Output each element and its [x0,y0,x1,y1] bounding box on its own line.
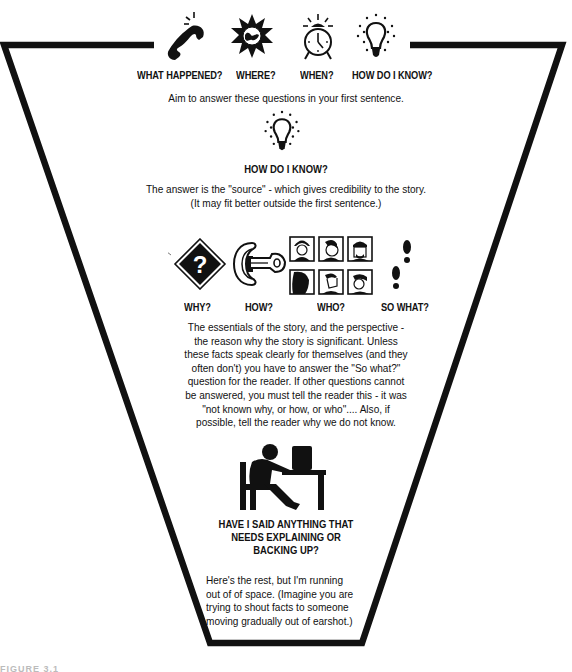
label-why: WHY? [184,301,211,313]
source-line: (It may fit better outside the first sen… [106,197,466,211]
lightbulb-icon [354,12,398,62]
rest-line: Here's the rest, but I'm running [206,574,341,588]
essentials-line: be answered, you must tell the reader th… [161,389,431,403]
essentials-paragraph: The essentials of the story, and the per… [161,321,431,430]
figure-caption-fragment: FIGURE 3.1 [0,664,100,672]
rest-line: trying to shout facts to someone [206,601,341,615]
rest-paragraph: Here's the rest, but I'm running out of … [206,574,341,628]
backup-heading-line: BACKING UP? [196,544,376,557]
essentials-line: often don't) you have to answer the "So … [161,362,431,376]
footprints-icon [388,238,416,294]
person-at-computer-icon [238,440,326,512]
essentials-line: possible, tell the reader why we do not … [161,416,431,430]
essentials-line: The essentials of the story, and the per… [161,321,431,335]
svg-text:?: ? [193,251,208,278]
label-where: WHERE? [236,69,276,81]
alarm-clock-icon [298,12,338,62]
label-how-do-i-know: HOW DO I KNOW? [352,69,432,81]
key-lock-icon [232,240,288,288]
label-when: WHEN? [300,69,333,81]
faces-grid-icon [289,236,375,298]
globe-star-icon [230,13,274,59]
rest-line: out of of space. (Imagine you are [206,588,341,602]
essentials-line: the reason why the story is significant.… [161,335,431,349]
essentials-line: these facts speak clearly for themselves… [161,348,431,362]
essentials-line: "not known why, or how, or who".... Also… [161,403,431,417]
first-sentence-caption: Aim to answer these questions in your fi… [106,92,466,106]
source-text: The answer is the "source" - which gives… [106,183,466,210]
label-so-what: SO WHAT? [381,301,429,313]
label-who: WHO? [317,301,345,313]
backup-heading: HAVE I SAID ANYTHING THAT NEEDS EXPLAINI… [196,518,376,557]
label-what-happened: WHAT HAPPENED? [137,69,222,81]
lightbulb-icon [262,109,302,155]
source-heading: HOW DO I KNOW? [196,163,376,176]
rest-line: moving gradually out of earshot.) [206,615,341,629]
telephone-icon [166,10,208,62]
backup-heading-line: HAVE I SAID ANYTHING THAT [196,518,376,531]
backup-heading-line: NEEDS EXPLAINING OR [196,531,376,544]
essentials-line: question for the reader. If other questi… [161,375,431,389]
label-how: HOW? [245,301,273,313]
source-line: The answer is the "source" - which gives… [106,183,466,197]
question-diamond-icon: ? [168,238,228,290]
